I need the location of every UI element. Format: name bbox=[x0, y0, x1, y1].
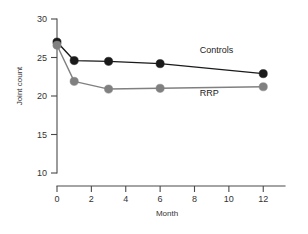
y-tick-label: 20 bbox=[37, 91, 47, 101]
x-tick-label: 4 bbox=[123, 194, 128, 204]
data-point bbox=[156, 60, 164, 68]
y-axis-ticks: 1015202530 bbox=[37, 14, 57, 178]
y-axis: 1015202530 bbox=[37, 14, 57, 178]
chart-container: 1015202530 024681012 ControlsRRP Joint c… bbox=[0, 0, 308, 234]
x-tick-label: 2 bbox=[89, 194, 94, 204]
data-point bbox=[104, 57, 112, 65]
y-axis-title: Joint count bbox=[15, 66, 24, 105]
x-tick-label: 0 bbox=[54, 194, 59, 204]
data-point bbox=[104, 85, 112, 93]
data-point bbox=[53, 41, 61, 49]
series-layer bbox=[53, 38, 267, 93]
y-tick-label: 10 bbox=[37, 168, 47, 178]
x-tick-label: 6 bbox=[158, 194, 163, 204]
data-point bbox=[70, 56, 78, 64]
x-axis-ticks: 024681012 bbox=[54, 186, 268, 204]
data-point bbox=[259, 70, 267, 78]
x-tick-label: 8 bbox=[192, 194, 197, 204]
series-labels: ControlsRRP bbox=[200, 45, 234, 98]
y-tick-label: 30 bbox=[37, 14, 47, 24]
series-controls bbox=[53, 38, 267, 78]
y-tick-label: 15 bbox=[37, 130, 47, 140]
data-point bbox=[259, 83, 267, 91]
data-point bbox=[70, 77, 78, 85]
series-label-controls: Controls bbox=[200, 45, 234, 55]
x-axis-title: Month bbox=[156, 209, 178, 218]
series-label-rrp: RRP bbox=[200, 88, 219, 98]
x-axis: 024681012 bbox=[54, 186, 285, 204]
x-tick-label: 12 bbox=[258, 194, 268, 204]
data-point bbox=[156, 84, 164, 92]
x-tick-label: 10 bbox=[224, 194, 234, 204]
y-tick-label: 25 bbox=[37, 53, 47, 63]
line-chart: 1015202530 024681012 ControlsRRP Joint c… bbox=[0, 0, 308, 234]
